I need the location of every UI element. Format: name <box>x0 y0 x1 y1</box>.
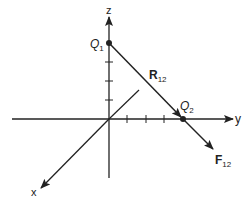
coordinate-diagram: z y x Q1 Q2 R12 F12 <box>0 0 245 208</box>
f12-label-main: F <box>215 153 222 167</box>
r12-label-main: R <box>149 68 158 82</box>
z-axis-label: z <box>106 4 112 16</box>
y-axis-label: y <box>235 112 241 126</box>
x-axis <box>41 119 109 188</box>
f12-label-sub: 12 <box>222 160 231 169</box>
q1-label: Q1 <box>90 37 104 53</box>
f12-label: F12 <box>215 153 232 169</box>
q2-label-sub: 2 <box>189 106 194 115</box>
q2-label: Q2 <box>180 99 194 115</box>
f12-vector <box>183 119 213 149</box>
q1-label-main: Q <box>90 37 99 51</box>
q2-label-main: Q <box>180 99 189 113</box>
x-axis-label: x <box>31 186 37 198</box>
r12-vector <box>109 43 181 117</box>
r12-label-sub: 12 <box>158 75 167 84</box>
x-axis-back <box>109 90 139 119</box>
q1-point <box>106 40 112 46</box>
q2-point <box>180 116 186 122</box>
q1-label-sub: 1 <box>99 44 104 53</box>
r12-label: R12 <box>149 68 167 84</box>
